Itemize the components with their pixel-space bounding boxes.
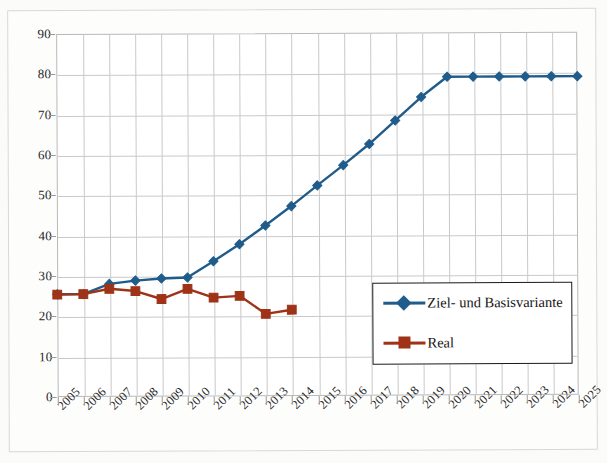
data-point-marker — [105, 284, 114, 293]
data-point-marker — [573, 72, 582, 81]
data-point-marker — [157, 274, 166, 283]
legend-entry-real: Real — [383, 332, 454, 352]
data-point-marker — [521, 72, 530, 81]
y-axis-tickmark — [50, 357, 57, 358]
chart-legend: Ziel- und Basisvariante Real — [372, 282, 572, 365]
data-point-marker — [261, 309, 270, 318]
data-point-marker — [131, 276, 140, 285]
y-axis-tickmarks — [0, 34, 61, 397]
y-axis-tickmark — [50, 397, 57, 398]
y-axis-tickmark — [48, 74, 55, 75]
y-axis-tickmark — [49, 195, 56, 196]
legend-key-blue-diamond — [383, 295, 425, 309]
scanned-page: 0102030405060708090 20052006200720082009… — [0, 0, 607, 463]
data-point-marker — [79, 290, 88, 299]
data-point-marker — [157, 295, 166, 304]
y-axis-tickmark — [49, 236, 56, 237]
data-point-marker — [287, 305, 296, 314]
data-point-marker — [495, 72, 504, 81]
data-point-marker — [131, 287, 140, 296]
x-axis-tick-label: 2025 — [576, 382, 605, 411]
data-point-marker — [469, 72, 478, 81]
y-axis-tickmark — [49, 316, 56, 317]
data-point-marker — [235, 291, 244, 300]
y-axis-tickmark — [48, 34, 55, 35]
data-point-marker — [183, 284, 192, 293]
x-axis-labels: 2005200620072008200920102011201220132014… — [0, 0, 606, 1]
line-chart: 0102030405060708090 20052006200720082009… — [0, 0, 607, 463]
data-point-marker — [53, 290, 62, 299]
legend-entry-ziel-und-basisvariante: Ziel- und Basisvariante — [383, 292, 562, 313]
y-axis-tickmark — [49, 276, 56, 277]
legend-label-0: Ziel- und Basisvariante — [427, 293, 562, 311]
series-line-red — [57, 288, 292, 315]
y-axis-tickmark — [49, 155, 56, 156]
legend-label-1: Real — [427, 334, 454, 351]
data-point-marker — [547, 72, 556, 81]
data-point-marker — [209, 293, 218, 302]
legend-key-red-square — [383, 335, 425, 349]
y-axis-tickmark — [48, 115, 55, 116]
